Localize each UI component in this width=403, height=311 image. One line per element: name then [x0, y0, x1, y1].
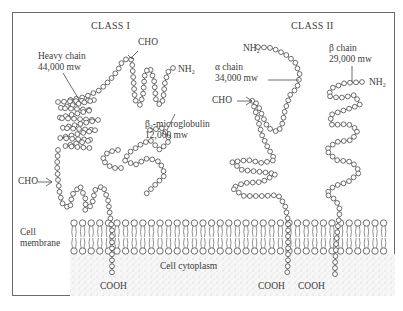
nh2-sub: 2: [383, 82, 386, 88]
nh2-sub: 2: [192, 69, 195, 75]
beta-chain-name: β chain: [329, 43, 372, 54]
alpha-chain-mw: 34,000 mw: [215, 73, 258, 84]
cytoplasm-label: Cell cytoplasm: [160, 261, 217, 272]
b2m-name: β2-microglobulin: [145, 119, 210, 130]
class2-beta-nh2-label: NH2: [369, 77, 386, 88]
nh2-text: NH: [243, 43, 257, 53]
b2m-label: β2-microglobulin 12,000 mw: [145, 119, 210, 141]
membrane-label-line2: membrane: [20, 238, 60, 249]
nh2-text: NH: [178, 64, 192, 74]
class2-cho-label: CHO: [212, 95, 232, 106]
class2-alpha-nh2-label: NH2: [243, 43, 260, 54]
class1-title: CLASS I: [91, 20, 130, 31]
heavy-chain-label: Heavy chain 44,000 mw: [38, 51, 86, 73]
class1-cooh-label: COOH: [100, 281, 127, 292]
membrane-label: Cell membrane: [20, 227, 60, 249]
alpha-chain-label: α chain 34,000 mw: [215, 62, 258, 84]
nh2-text: NH: [369, 77, 383, 87]
b2m-mw: 12,000 mw: [145, 130, 210, 141]
b2m-suffix: -microglobulin: [153, 119, 210, 129]
class2-title: CLASS II: [291, 20, 334, 31]
beta-chain-label: β chain 29,000 mw: [329, 43, 372, 65]
cho-left-label: CHO: [18, 176, 38, 187]
beta-chain-mw: 29,000 mw: [329, 54, 372, 65]
class2-cooh-alpha-label: COOH: [258, 281, 285, 292]
nh2-sub: 2: [257, 48, 260, 54]
cho-top-label: CHO: [138, 37, 158, 48]
heavy-chain-mw: 44,000 mw: [38, 62, 86, 73]
alpha-chain-name: α chain: [215, 62, 258, 73]
class1-nh2-label: NH2: [178, 64, 195, 75]
membrane-label-line1: Cell: [20, 227, 60, 238]
class2-cooh-beta-label: COOH: [298, 281, 325, 292]
heavy-chain-name: Heavy chain: [38, 51, 86, 62]
